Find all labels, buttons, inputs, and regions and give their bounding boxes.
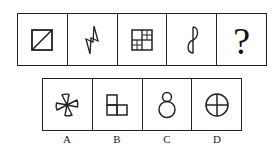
question-mark: ? bbox=[233, 22, 250, 60]
option-label-a: A bbox=[42, 133, 92, 145]
option-label-c: C bbox=[142, 133, 192, 145]
option-c[interactable] bbox=[143, 79, 193, 130]
option-labels: A B C D bbox=[42, 133, 242, 145]
option-a[interactable] bbox=[43, 79, 93, 130]
option-d[interactable] bbox=[192, 79, 241, 130]
question-row: ? bbox=[17, 13, 267, 66]
option-label-d: D bbox=[192, 133, 242, 145]
pinwheel-fan-icon bbox=[54, 92, 80, 118]
question-cell-4 bbox=[167, 14, 217, 65]
option-b[interactable] bbox=[93, 79, 143, 130]
circle-cross-icon bbox=[204, 92, 230, 118]
question-cell-2 bbox=[68, 14, 118, 65]
stacked-circles-icon bbox=[156, 91, 178, 119]
figure-eight-icon bbox=[184, 25, 200, 55]
option-label-b: B bbox=[92, 133, 142, 145]
options-row bbox=[42, 78, 242, 131]
l-shape-squares-icon bbox=[105, 93, 129, 117]
square-diagonal-icon bbox=[31, 29, 53, 51]
question-cell-5: ? bbox=[217, 14, 266, 65]
question-cell-1 bbox=[18, 14, 68, 65]
lightning-bolt-icon bbox=[84, 25, 100, 55]
quadrant-grid-icon bbox=[131, 29, 153, 51]
question-cell-3 bbox=[118, 14, 168, 65]
